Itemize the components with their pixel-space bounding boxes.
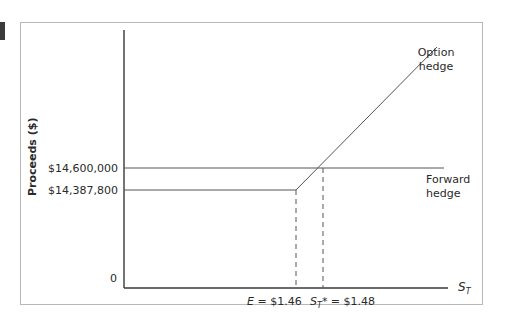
y-tick-zero: 0 — [110, 272, 117, 285]
option-hedge-label-1: Option — [418, 46, 455, 59]
option-hedge-label-2: hedge — [419, 60, 454, 73]
x-tick-strike: E = $1.46 — [247, 295, 302, 308]
x-tick-breakeven: ST* = $1.48 — [310, 295, 375, 310]
forward-hedge-label-1: Forward — [426, 173, 470, 186]
x-axis-label: ST — [458, 280, 472, 296]
forward-hedge-label-2: hedge — [426, 187, 461, 200]
y-tick-option-floor: $14,387,800 — [48, 184, 118, 197]
hedge-payoff-chart: Proceeds ($) $14,600,000 $14,387,800 0 E… — [0, 0, 505, 320]
option-hedge-line — [124, 47, 437, 190]
y-axis-label: Proceeds ($) — [26, 118, 39, 196]
y-tick-forward: $14,600,000 — [48, 162, 118, 175]
